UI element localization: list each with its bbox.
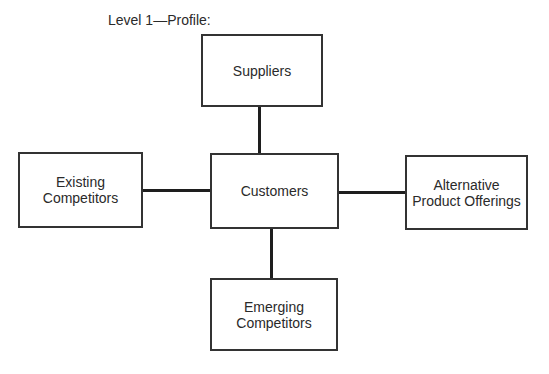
diagram-title: Level 1—Profile: (108, 12, 211, 28)
node-label-line2: Product Offerings (412, 193, 521, 209)
edge-customers-alternative (337, 191, 406, 194)
node-alternative-product-offerings: Alternative Product Offerings (405, 155, 528, 230)
edge-customers-emerging (270, 227, 273, 279)
node-label-line2: Competitors (43, 190, 118, 206)
node-label-line2: Competitors (236, 315, 311, 331)
edge-customers-existing (141, 189, 211, 192)
node-suppliers: Suppliers (201, 34, 323, 107)
node-customers: Customers (210, 153, 339, 229)
edge-customers-suppliers (258, 105, 261, 154)
node-label: Suppliers (233, 63, 291, 79)
node-label-line1: Alternative (412, 177, 521, 193)
node-label: Customers (241, 183, 309, 199)
node-emerging-competitors: Emerging Competitors (210, 278, 338, 351)
node-label-line1: Existing (43, 174, 118, 190)
node-label-line1: Emerging (236, 299, 311, 315)
node-existing-competitors: Existing Competitors (18, 152, 143, 228)
